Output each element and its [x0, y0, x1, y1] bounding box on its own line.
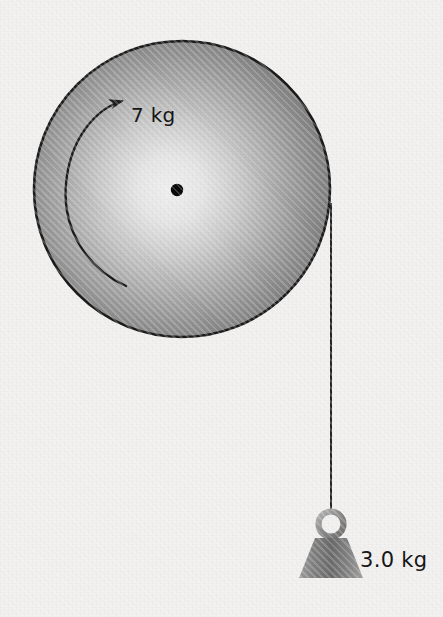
physics-diagram: 7 kg 3.0 kg — [0, 0, 443, 617]
disk-mass-label: 7 kg — [131, 103, 176, 127]
hanging-weight — [299, 512, 363, 579]
weight-mass-label: 3.0 kg — [360, 548, 427, 572]
rotating-disk — [34, 41, 330, 337]
disk-axle-dot — [171, 184, 183, 196]
weight-body — [299, 538, 363, 578]
diagram-canvas — [0, 0, 443, 617]
weight-ring — [319, 512, 344, 537]
